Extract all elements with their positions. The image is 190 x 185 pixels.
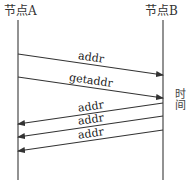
sequence-diagram (0, 0, 190, 185)
time-axis-label: 时间 (173, 88, 185, 110)
